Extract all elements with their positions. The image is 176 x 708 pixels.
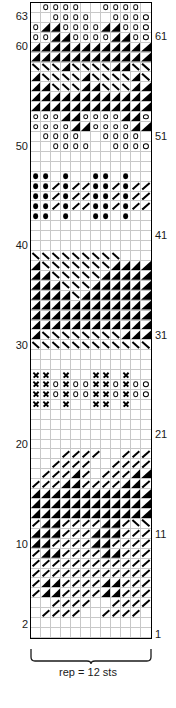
chart-cell-r47-c4 <box>61 172 71 182</box>
chart-cell-r29-c5 <box>71 350 81 360</box>
chart-grid <box>31 3 151 638</box>
chart-cell-r34-c3 <box>51 301 61 311</box>
chart-cell-r2-c1 <box>31 618 41 628</box>
chart-cell-r6-c2 <box>41 578 51 588</box>
chart-cell-r59-c5 <box>71 53 81 63</box>
chart-cell-r62-c3 <box>51 23 61 33</box>
chart-cell-r60-c8 <box>101 43 111 53</box>
chart-cell-r20-c11 <box>131 440 141 450</box>
chart-cell-r63-c12 <box>141 13 151 23</box>
row-label-right-61: 61 <box>155 31 176 42</box>
chart-cell-r44-c9 <box>111 201 121 211</box>
chart-cell-r6-c6 <box>81 578 91 588</box>
chart-cell-r64-c8 <box>101 3 111 13</box>
chart-cell-r6-c3 <box>51 578 61 588</box>
chart-cell-r33-c6 <box>81 311 91 321</box>
chart-cell-r36-c1 <box>31 281 41 291</box>
chart-cell-r16-c3 <box>51 479 61 489</box>
chart-cell-r45-c5 <box>71 192 81 202</box>
chart-cell-r3-c8 <box>101 608 111 618</box>
chart-cell-r64-c4 <box>61 3 71 13</box>
chart-cell-r22-c5 <box>71 420 81 430</box>
chart-cell-r63-c3 <box>51 13 61 23</box>
chart-cell-r30-c5 <box>71 340 81 350</box>
chart-cell-r37-c5 <box>71 271 81 281</box>
chart-cell-r16-c8 <box>101 479 111 489</box>
chart-cell-r27-c4 <box>61 370 71 380</box>
chart-cell-r27-c7 <box>91 370 101 380</box>
chart-cell-r62-c7 <box>91 23 101 33</box>
chart-cell-r54-c3 <box>51 102 61 112</box>
chart-cell-r9-c8 <box>101 549 111 559</box>
chart-cell-r54-c5 <box>71 102 81 112</box>
chart-cell-r8-c5 <box>71 559 81 569</box>
chart-cell-r14-c1 <box>31 499 41 509</box>
row-label-right-31: 31 <box>155 330 176 341</box>
chart-cell-r48-c12 <box>141 162 151 172</box>
row-label-right-1: 1 <box>155 629 176 640</box>
chart-cell-r43-c2 <box>41 211 51 221</box>
chart-cell-r25-c3 <box>51 390 61 400</box>
chart-cell-r23-c3 <box>51 410 61 420</box>
chart-cell-r50-c1 <box>31 142 41 152</box>
chart-cell-r51-c8 <box>101 132 111 142</box>
chart-cell-r32-c4 <box>61 321 71 331</box>
chart-cell-r52-c11 <box>131 122 141 132</box>
chart-cell-r37-c6 <box>81 271 91 281</box>
chart-cell-r20-c6 <box>81 440 91 450</box>
chart-cell-r46-c3 <box>51 182 61 192</box>
chart-cell-r18-c3 <box>51 459 61 469</box>
chart-cell-r54-c2 <box>41 102 51 112</box>
chart-cell-r53-c10 <box>121 112 131 122</box>
chart-cell-r21-c2 <box>41 430 51 440</box>
chart-cell-r23-c2 <box>41 410 51 420</box>
chart-cell-r49-c10 <box>121 152 131 162</box>
chart-cell-r33-c10 <box>121 311 131 321</box>
chart-cell-r43-c7 <box>91 211 101 221</box>
chart-cell-r13-c6 <box>81 509 91 519</box>
chart-cell-r3-c1 <box>31 608 41 618</box>
row-label-left-30: 30 <box>0 340 28 351</box>
chart-cell-r61-c4 <box>61 33 71 43</box>
chart-cell-r40-c12 <box>141 241 151 251</box>
chart-cell-r51-c7 <box>91 132 101 142</box>
chart-cell-r42-c6 <box>81 221 91 231</box>
chart-cell-r46-c7 <box>91 182 101 192</box>
chart-cell-r36-c8 <box>101 281 111 291</box>
chart-cell-r15-c4 <box>61 489 71 499</box>
chart-cell-r24-c4 <box>61 400 71 410</box>
chart-cell-r49-c7 <box>91 152 101 162</box>
chart-cell-r32-c10 <box>121 321 131 331</box>
chart-cell-r35-c10 <box>121 291 131 301</box>
chart-cell-r50-c4 <box>61 142 71 152</box>
chart-cell-r40-c9 <box>111 241 121 251</box>
chart-cell-r56-c10 <box>121 82 131 92</box>
chart-cell-r37-c3 <box>51 271 61 281</box>
chart-cell-r58-c7 <box>91 63 101 73</box>
chart-cell-r61-c2 <box>41 33 51 43</box>
chart-cell-r59-c9 <box>111 53 121 63</box>
chart-cell-r49-c8 <box>101 152 111 162</box>
chart-cell-r26-c1 <box>31 380 41 390</box>
chart-cell-r55-c8 <box>101 92 111 102</box>
chart-cell-r19-c12 <box>141 449 151 459</box>
chart-cell-r42-c8 <box>101 221 111 231</box>
chart-cell-r6-c10 <box>121 578 131 588</box>
chart-cell-r61-c7 <box>91 33 101 43</box>
chart-cell-r40-c10 <box>121 241 131 251</box>
chart-cell-r54-c9 <box>111 102 121 112</box>
chart-cell-r23-c10 <box>121 410 131 420</box>
chart-cell-r40-c6 <box>81 241 91 251</box>
chart-cell-r49-c6 <box>81 152 91 162</box>
chart-cell-r18-c5 <box>71 459 81 469</box>
chart-cell-r63-c10 <box>121 13 131 23</box>
chart-cell-r17-c2 <box>41 469 51 479</box>
chart-cell-r41-c3 <box>51 231 61 241</box>
chart-cell-r37-c9 <box>111 271 121 281</box>
chart-cell-r1-c1 <box>31 628 41 638</box>
chart-cell-r58-c3 <box>51 63 61 73</box>
chart-cell-r13-c5 <box>71 509 81 519</box>
chart-cell-r21-c3 <box>51 430 61 440</box>
chart-cell-r39-c11 <box>131 251 141 261</box>
chart-cell-r32-c8 <box>101 321 111 331</box>
